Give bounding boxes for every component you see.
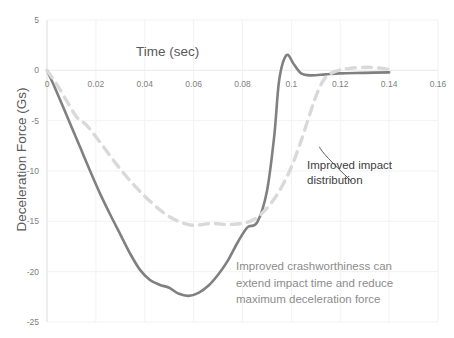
svg-text:-25: -25 [27,317,40,327]
y-axis-tick-labels: 50-5-10-15-20-25 [27,15,40,327]
svg-text:-5: -5 [31,116,39,126]
series-improved-impact-distribution [47,67,389,225]
svg-text:0: 0 [45,79,50,89]
svg-text:-15: -15 [27,216,40,226]
svg-text:0.04: 0.04 [136,79,153,89]
x-axis-tick-labels: 00.020.040.060.080.10.120.140.16 [45,79,447,89]
svg-text:0.1: 0.1 [285,79,297,89]
svg-text:0.16: 0.16 [430,79,447,89]
svg-text:0.12: 0.12 [332,79,349,89]
svg-text:5: 5 [34,15,39,25]
crashworthiness-note: Improved crashworthiness can extend impa… [236,258,393,308]
chart-container: 00.020.040.060.080.10.120.140.16 50-5-10… [0,0,454,338]
svg-text:0.02: 0.02 [88,79,105,89]
svg-text:-20: -20 [27,267,40,277]
y-axis-title: Deceleration Force (Gs) [14,80,29,240]
svg-text:0.14: 0.14 [381,79,398,89]
svg-text:0: 0 [34,65,39,75]
svg-text:-10: -10 [27,166,40,176]
svg-text:0.08: 0.08 [234,79,251,89]
svg-text:0.06: 0.06 [185,79,202,89]
x-axis-title: Time (sec) [136,44,199,59]
improved-impact-distribution-callout: Improved impact distribution [307,158,392,187]
